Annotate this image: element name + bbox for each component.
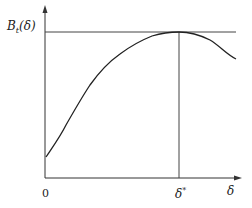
x-axis-label: δ: [227, 185, 234, 197]
delta-star-label: δ*: [175, 187, 186, 200]
origin-label: 0: [42, 188, 49, 199]
y-label-arg: (δ): [19, 19, 36, 33]
delta-star-sup: *: [182, 186, 186, 195]
x-axis-arrow-icon: [234, 176, 242, 181]
bt-curve: [46, 32, 236, 157]
chart-figure: [0, 0, 252, 208]
y-label-main: B: [7, 19, 16, 33]
y-axis-label: Bt(δ): [7, 20, 36, 35]
y-axis-arrow-icon: [43, 5, 48, 13]
